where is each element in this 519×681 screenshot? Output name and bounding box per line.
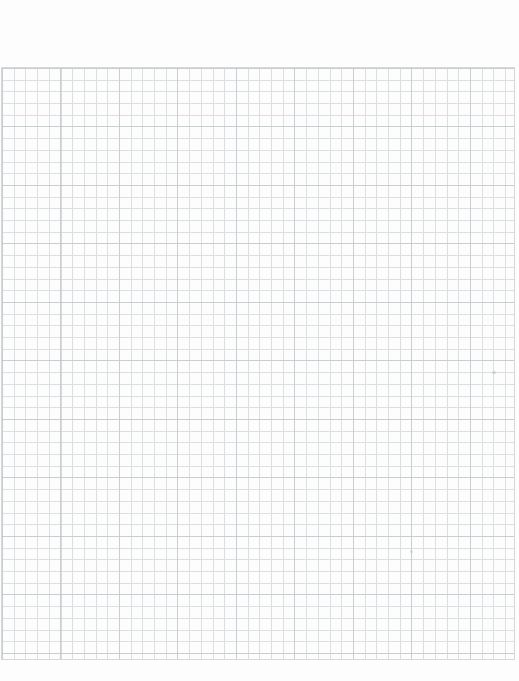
speck-artifact-1 <box>492 371 496 374</box>
paper-sheet <box>0 0 519 681</box>
scanned-graph-paper-page: { "page": { "type": "blank quad-ruled gr… <box>0 0 519 681</box>
graph-grid <box>1 67 515 660</box>
speck-artifact-2 <box>410 550 413 553</box>
